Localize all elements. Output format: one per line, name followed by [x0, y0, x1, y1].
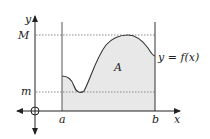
y-axis-label: y: [24, 13, 32, 26]
x-axis-label: x: [174, 113, 181, 126]
lower-bound-label: m: [21, 85, 31, 98]
area-diagram: y x M m a b A y = f(x): [0, 0, 210, 139]
left-limit-label: a: [59, 113, 66, 126]
right-limit-label: b: [152, 113, 159, 126]
upper-bound-label: M: [17, 29, 30, 42]
shaded-area-region: [62, 35, 155, 111]
function-label: y = f(x): [157, 51, 199, 64]
area-label: A: [113, 61, 122, 74]
